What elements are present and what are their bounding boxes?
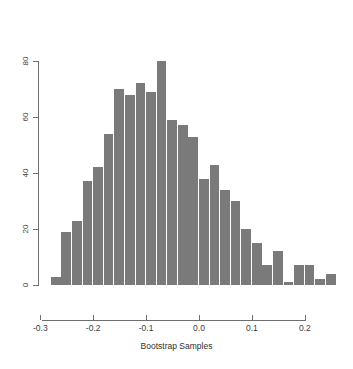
histogram-bar xyxy=(51,277,61,285)
histogram-bar xyxy=(220,190,230,285)
x-axis-tick-mark xyxy=(40,315,41,320)
x-axis-line xyxy=(42,320,306,321)
histogram-bar xyxy=(273,251,283,285)
y-axis-tick-label: 0 xyxy=(18,278,32,292)
y-axis-tick-mark xyxy=(33,229,39,230)
y-axis-tick-label-text: 80 xyxy=(21,57,30,66)
histogram-bar xyxy=(241,229,251,285)
histogram-bar xyxy=(72,221,82,285)
histogram-bar xyxy=(114,89,124,285)
histogram-bar xyxy=(61,232,71,285)
histogram-bar xyxy=(125,95,135,285)
histogram-bar xyxy=(326,274,336,285)
y-axis-tick-mark xyxy=(33,61,39,62)
y-axis-tick-mark xyxy=(33,285,39,286)
x-axis-tick-label: -0.1 xyxy=(126,323,166,333)
histogram-bar xyxy=(210,165,220,285)
histogram-bar xyxy=(188,137,198,285)
histogram-bar xyxy=(167,120,177,285)
x-axis-tick-mark xyxy=(199,315,200,320)
histogram-bar xyxy=(294,265,304,285)
plot-area xyxy=(0,0,353,369)
y-axis-tick-label-text: 40 xyxy=(21,169,30,178)
y-axis-tick-label-text: 60 xyxy=(21,113,30,122)
histogram-bar xyxy=(146,92,156,285)
x-axis-tick-label: -0.2 xyxy=(73,323,113,333)
x-axis-tick-mark xyxy=(93,315,94,320)
histogram-bar xyxy=(199,179,209,285)
histogram-bar xyxy=(136,83,146,285)
y-axis-tick-mark xyxy=(33,173,39,174)
y-axis-tick-mark xyxy=(33,117,39,118)
y-axis-tick-label: 60 xyxy=(18,110,32,124)
x-axis-tick-label: 0.2 xyxy=(285,323,325,333)
x-axis-tick-mark xyxy=(305,315,306,320)
x-axis-tick-label: 0.0 xyxy=(179,323,219,333)
histogram-chart: 020406080 -0.3-0.2-0.10.00.10.2 Bootstra… xyxy=(0,0,353,369)
y-axis-tick-label: 40 xyxy=(18,166,32,180)
histogram-bar xyxy=(178,125,188,285)
histogram-bar xyxy=(157,61,167,285)
histogram-bar xyxy=(104,134,114,285)
y-axis-tick-label: 80 xyxy=(18,54,32,68)
histogram-bar xyxy=(93,167,103,285)
x-axis-tick-label: -0.3 xyxy=(20,323,60,333)
x-axis-tick-mark xyxy=(252,315,253,320)
histogram-bar xyxy=(305,265,315,285)
histogram-bar xyxy=(252,243,262,285)
histogram-bar xyxy=(284,282,294,285)
histogram-bar xyxy=(315,279,325,285)
y-axis-tick-label-text: 20 xyxy=(21,225,30,234)
x-axis-title: Bootstrap Samples xyxy=(0,341,353,351)
x-axis-tick-mark xyxy=(146,315,147,320)
histogram-bar xyxy=(83,181,93,285)
x-axis-tick-label: 0.1 xyxy=(232,323,272,333)
histogram-bar xyxy=(231,201,241,285)
histogram-bar xyxy=(262,265,272,285)
y-axis-tick-label-text: 0 xyxy=(21,283,30,287)
y-axis-tick-label: 20 xyxy=(18,222,32,236)
